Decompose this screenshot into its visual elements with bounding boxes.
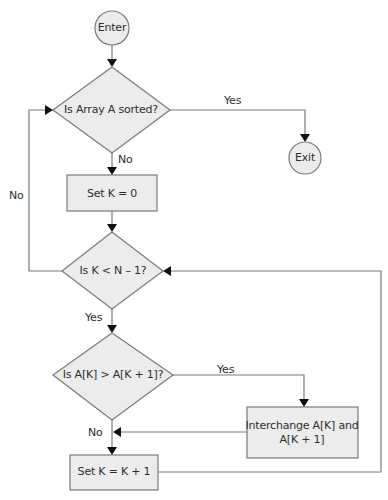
arrowhead [107,224,117,232]
arrowhead [107,59,117,67]
k-less-label: Is K < N – 1? [80,264,147,277]
increment-label: Set K = K + 1 [78,465,151,478]
edge-kless-no-loop [29,110,62,271]
sorted-yes-label: Yes [224,94,241,107]
sorted-no-label: No [118,153,133,166]
compare-yes-label: Yes [217,363,234,376]
edge-compare-yes [173,375,304,400]
arrowhead [300,134,310,142]
interchange-label-line1: Interchange A[K] and [245,419,358,432]
arrowhead [107,447,117,455]
arrowhead [107,167,117,175]
enter-label: Enter [98,21,127,34]
compare-label: Is A[K] > A[K + 1]? [63,368,164,381]
arrowhead [113,427,121,437]
arrowhead [163,266,171,276]
arrowhead [299,399,309,407]
is-sorted-label: Is Array A sorted? [64,103,158,116]
edge-sorted-yes [170,110,305,134]
set-k-zero-label: Set K = 0 [87,187,137,200]
arrowhead [107,325,117,333]
exit-label: Exit [295,151,315,164]
compare-no-label: No [88,426,103,439]
interchange-label-line2: A[K + 1] [280,433,325,446]
arrowhead [45,105,53,115]
k-less-yes-label: Yes [85,311,102,324]
k-less-no-label: No [9,189,24,202]
